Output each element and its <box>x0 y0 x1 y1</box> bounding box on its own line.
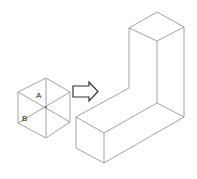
right-arrow-icon <box>73 82 98 101</box>
face-label-a: A <box>36 91 42 100</box>
diagram-canvas: A B <box>0 0 197 179</box>
hexagon-cube: A B <box>18 78 70 138</box>
face-label-b: B <box>22 114 27 123</box>
